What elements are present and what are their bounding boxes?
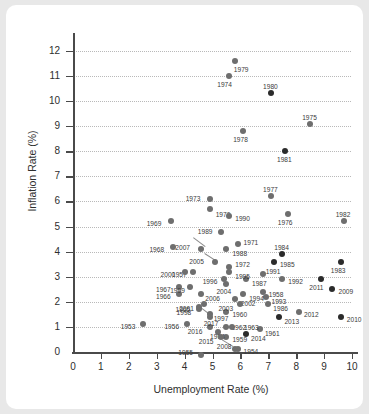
- gridline-y-4: [74, 252, 351, 253]
- data-point-2011[interactable]: [318, 276, 324, 282]
- y-tick-label-12: 12: [14, 46, 60, 56]
- point-label-1973: 1973: [186, 195, 201, 202]
- point-label-1993: 1993: [272, 298, 287, 305]
- data-point-2006[interactable]: [198, 291, 204, 297]
- point-label-1990: 1990: [235, 215, 250, 222]
- point-label-1972: 1972: [235, 261, 250, 268]
- point-label-1977: 1977: [263, 186, 278, 193]
- data-point-1978[interactable]: [240, 128, 246, 134]
- data-point-1973[interactable]: [207, 196, 213, 202]
- x-tick-label-1: 1: [89, 361, 113, 372]
- point-label-1978: 1978: [233, 136, 248, 143]
- point-label-1960: 1960: [232, 311, 247, 318]
- point-label-2001: 2001: [179, 305, 194, 312]
- point-label-2004: 2004: [216, 288, 231, 295]
- data-point-1976[interactable]: [285, 211, 291, 217]
- data-point-1955[interactable]: [198, 352, 204, 358]
- data-point-2000[interactable]: [182, 269, 188, 275]
- data-point-1986[interactable]: [265, 301, 271, 307]
- point-label-2014: 2014: [251, 335, 266, 342]
- point-label-1967: 1967: [156, 286, 171, 293]
- data-point-1990[interactable]: [226, 213, 232, 219]
- point-label-2008: 2008: [217, 343, 232, 350]
- point-label-1984: 1984: [274, 244, 289, 251]
- point-label-1958: 1958: [269, 291, 284, 298]
- point-label-1974: 1974: [217, 81, 232, 88]
- data-point-1971[interactable]: [235, 241, 241, 247]
- point-label-1989: 1989: [198, 228, 213, 235]
- y-tick-label-4: 4: [14, 247, 60, 257]
- gridline-y-6: [74, 201, 351, 202]
- y-tick-label-3: 3: [14, 272, 60, 282]
- y-axis-title: Inflation Rate (%): [26, 101, 38, 241]
- gridline-y-7: [74, 176, 351, 177]
- x-tick-label-5: 5: [201, 361, 225, 372]
- data-point-1992[interactable]: [279, 276, 285, 282]
- point-label-2015: 2015: [199, 338, 214, 345]
- point-label-1988: 1988: [232, 250, 247, 257]
- data-point-1982[interactable]: [341, 218, 347, 224]
- point-label-1976: 1976: [278, 219, 293, 226]
- data-point-1977[interactable]: [268, 193, 274, 199]
- x-tick-label-3: 3: [145, 361, 169, 372]
- gridline-y-10: [74, 101, 351, 102]
- data-point-1981[interactable]: [282, 148, 288, 154]
- point-label-1954: 1954: [244, 348, 259, 355]
- point-label-2010: 2010: [347, 316, 362, 323]
- point-label-1956: 1956: [164, 323, 179, 330]
- data-point-1998[interactable]: [196, 306, 202, 312]
- data-point-2013[interactable]: [276, 314, 282, 320]
- data-point-1983[interactable]: [338, 259, 344, 265]
- point-label-1979: 1979: [234, 66, 249, 73]
- x-tick-label-10: 10: [340, 361, 364, 372]
- data-point-1994[interactable]: [240, 291, 246, 297]
- data-point-1974[interactable]: [226, 73, 232, 79]
- gridline-y-12: [74, 51, 351, 52]
- point-label-1953: 1953: [121, 323, 136, 330]
- y-tick-label-11: 11: [14, 71, 60, 81]
- data-point-1970[interactable]: [207, 206, 213, 212]
- data-point-1985[interactable]: [271, 259, 277, 265]
- x-tick-label-6: 6: [228, 361, 252, 372]
- point-label-1986: 1986: [273, 305, 288, 312]
- y-tick-label-1: 1: [14, 322, 60, 332]
- point-label-1987: 1987: [252, 280, 267, 287]
- point-label-1968: 1968: [149, 246, 164, 253]
- data-point-1979[interactable]: [232, 58, 238, 64]
- point-label-2017: 2017: [204, 320, 219, 327]
- data-point-1963[interactable]: [229, 324, 235, 330]
- point-label-2009: 2009: [338, 288, 353, 295]
- data-point-2010[interactable]: [338, 314, 344, 320]
- data-point-1999[interactable]: [187, 284, 193, 290]
- x-tick-label-7: 7: [256, 361, 280, 372]
- data-point-1989[interactable]: [218, 229, 224, 235]
- y-tick-label-0: 0: [14, 347, 60, 357]
- point-label-1963: 1963: [244, 324, 259, 331]
- data-point-1984[interactable]: [279, 251, 285, 257]
- data-point-2015[interactable]: [218, 334, 224, 340]
- point-label-1999: 1999: [170, 287, 185, 294]
- gridline-y-8: [74, 151, 351, 152]
- data-point-1980[interactable]: [268, 90, 274, 96]
- data-point-2005[interactable]: [212, 259, 218, 265]
- data-point-1957[interactable]: [190, 269, 196, 275]
- data-point-2004[interactable]: [223, 281, 229, 287]
- x-tick-label-4: 4: [173, 361, 197, 372]
- point-label-2006: 2006: [205, 295, 220, 302]
- point-label-2012: 2012: [304, 311, 319, 318]
- x-axis-line: [72, 352, 358, 354]
- data-point-2014[interactable]: [243, 331, 249, 337]
- data-point-1969[interactable]: [168, 218, 174, 224]
- data-point-2009[interactable]: [329, 286, 335, 292]
- point-label-1955: 1955: [178, 349, 193, 356]
- point-label-2016: 2016: [188, 328, 203, 335]
- data-point-1995[interactable]: [226, 269, 232, 275]
- point-label-1991: 1991: [266, 268, 281, 275]
- x-tick-label-9: 9: [312, 361, 336, 372]
- x-tick-label-0: 0: [61, 361, 85, 372]
- data-point-2012[interactable]: [296, 309, 302, 315]
- data-point-1975[interactable]: [307, 121, 313, 127]
- x-tick-label-8: 8: [284, 361, 308, 372]
- point-label-1971: 1971: [244, 239, 259, 246]
- point-label-1961: 1961: [265, 330, 280, 337]
